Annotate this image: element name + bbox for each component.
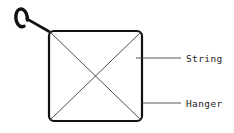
label-string: String xyxy=(186,53,223,64)
hook-shaft xyxy=(27,19,50,32)
hanger-hook-icon xyxy=(16,9,28,27)
hanger-diagram: String Hanger xyxy=(0,0,234,133)
label-hanger: Hanger xyxy=(186,98,223,109)
diagram-canvas: String Hanger xyxy=(0,0,234,133)
